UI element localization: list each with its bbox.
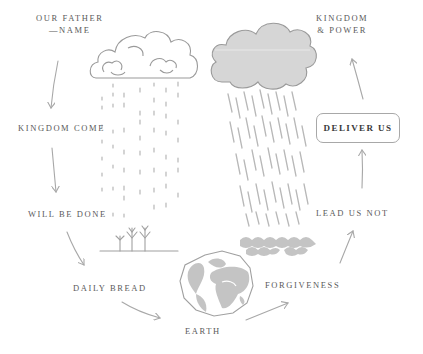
label-daily-bread: DAILY BREAD bbox=[73, 282, 147, 294]
arrow-forgiveness-to-leadusnot bbox=[340, 231, 353, 263]
label-line: KINGDOM COME bbox=[18, 122, 105, 134]
arrow-deliverus-to-kingdompower bbox=[352, 59, 363, 99]
filled-cloud-icon bbox=[211, 23, 316, 89]
label-line: WILL BE DONE bbox=[28, 208, 107, 220]
arrow-leadusnot-to-deliverus bbox=[362, 150, 363, 188]
heavy-rain-icon bbox=[228, 90, 308, 226]
diagram-illustration bbox=[0, 0, 423, 354]
label-our-father: OUR FATHER —NAME bbox=[36, 12, 104, 36]
label-line: LEAD US NOT bbox=[316, 207, 389, 219]
prayer-cycle-diagram: OUR FATHER —NAME KINGDOM COME WILL BE DO… bbox=[0, 0, 423, 354]
label-line: FORGIVENESS bbox=[265, 279, 340, 291]
label-forgiveness: FORGIVENESS bbox=[265, 279, 340, 291]
arrow-earth-to-forgiveness bbox=[246, 303, 288, 320]
waves-icon bbox=[240, 237, 316, 256]
seedlings-icon bbox=[100, 226, 178, 251]
arrow-willbedone-to-dailybread bbox=[67, 232, 84, 265]
label-line: DELIVER US bbox=[324, 123, 393, 133]
label-line: EARTH bbox=[185, 325, 221, 337]
globe-icon bbox=[180, 251, 253, 316]
label-kingdom-power: KINGDOM & POWER bbox=[316, 12, 368, 36]
label-lead-us-not: LEAD US NOT bbox=[316, 207, 389, 219]
arrow-kingdomcome-to-willbedone bbox=[52, 148, 56, 192]
label-line: —NAME bbox=[36, 24, 104, 36]
label-earth: EARTH bbox=[185, 325, 221, 337]
label-will-be-done: WILL BE DONE bbox=[28, 208, 107, 220]
outline-cloud-icon bbox=[90, 32, 197, 78]
label-line: DAILY BREAD bbox=[73, 282, 147, 294]
arrow-ourfather-to-kingdomcome bbox=[51, 61, 58, 108]
label-kingdom-come: KINGDOM COME bbox=[18, 122, 105, 134]
light-rain-icon bbox=[102, 82, 178, 217]
label-line: & POWER bbox=[316, 24, 368, 36]
label-deliver-us: DELIVER US bbox=[316, 113, 400, 143]
label-line: KINGDOM bbox=[316, 12, 368, 24]
label-line: OUR FATHER bbox=[36, 12, 104, 24]
arrow-dailybread-to-earth bbox=[122, 302, 160, 318]
